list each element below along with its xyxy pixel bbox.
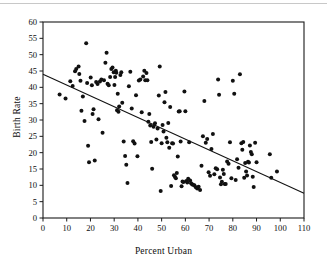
data-point [158,64,162,68]
data-point [97,117,101,121]
data-point [240,148,244,152]
data-point [234,178,238,182]
data-point [135,154,139,158]
data-point [250,152,254,156]
x-tick-label: 110 [298,223,311,233]
data-point [247,160,251,164]
y-axis-title: Birth Rate [12,67,22,167]
data-point [269,176,273,180]
y-tick-label: 55 [28,33,37,43]
data-point [77,72,81,76]
data-point [180,184,184,188]
data-point [123,154,127,158]
y-tick-label: 60 [28,17,37,27]
data-point [128,70,132,74]
data-point [64,96,68,100]
y-tick-label: 15 [28,164,37,174]
data-point [102,78,106,82]
data-point [187,140,191,144]
data-point [252,185,256,189]
x-tick-label: 90 [252,223,261,233]
x-tick-label: 80 [229,223,238,233]
data-point [178,109,182,113]
data-point [87,160,91,164]
data-point [175,171,179,175]
data-point [182,90,186,94]
y-tick-label: 0 [33,213,37,223]
data-point [237,166,241,170]
data-point [130,107,134,111]
y-axis-tick-labels: 051015202530354045505560 [28,17,37,223]
data-point [145,78,149,82]
data-point [161,123,165,127]
data-point [205,137,209,141]
y-tick-label: 25 [28,131,37,141]
plot-frame [43,22,304,218]
data-point [199,164,203,168]
data-point [207,170,211,174]
y-tick-label: 20 [28,148,37,158]
data-point [171,142,175,146]
data-point [127,84,131,88]
data-point [255,160,259,164]
x-tick-label: 70 [205,223,214,233]
data-point [125,181,129,185]
data-point [232,92,236,96]
data-point [141,75,145,79]
data-point [156,126,160,130]
data-point [238,72,242,76]
data-point [134,93,138,97]
data-point [221,168,225,172]
data-point [227,162,231,166]
data-point [92,107,96,111]
data-point [174,176,178,180]
data-point [229,176,233,180]
data-point [140,110,144,114]
x-tick-label: 40 [134,223,143,233]
y-tick-label: 35 [28,99,37,109]
data-point [122,140,126,144]
data-point [101,131,105,135]
x-tick-label: 30 [110,223,119,233]
y-tick-label: 45 [28,66,37,76]
data-point [147,112,151,116]
x-tick-label: 20 [86,223,95,233]
data-point [253,141,257,145]
data-point [235,157,239,161]
data-point [165,140,169,144]
y-tick-label: 40 [28,82,37,92]
data-point [218,175,222,179]
data-point [275,170,279,174]
data-point [169,184,173,188]
data-point [198,188,202,192]
data-point [68,79,72,83]
data-point [105,51,109,55]
data-point [204,141,208,145]
data-point [107,83,111,87]
data-point [163,90,167,94]
data-point [124,163,128,167]
data-point [228,140,232,144]
data-point [202,99,206,103]
x-axis-title: Percent Urban [0,246,327,256]
data-point [222,172,226,176]
data-point [212,172,216,176]
data-point [160,141,164,145]
data-point [176,155,180,159]
data-point [111,65,115,69]
y-tick-label: 5 [33,197,37,207]
data-point [93,159,97,163]
scatter-plot-figure: 051015202530354045505560 010203040506070… [0,0,327,266]
data-point [251,175,255,179]
data-point [120,101,124,105]
data-point [86,144,90,148]
data-point [116,92,120,96]
data-point [146,120,150,124]
data-point [83,119,87,123]
data-point [217,93,221,97]
data-point [116,110,120,114]
data-point [154,138,158,142]
data-point [168,105,172,109]
data-point [179,140,183,144]
data-point [153,121,157,125]
